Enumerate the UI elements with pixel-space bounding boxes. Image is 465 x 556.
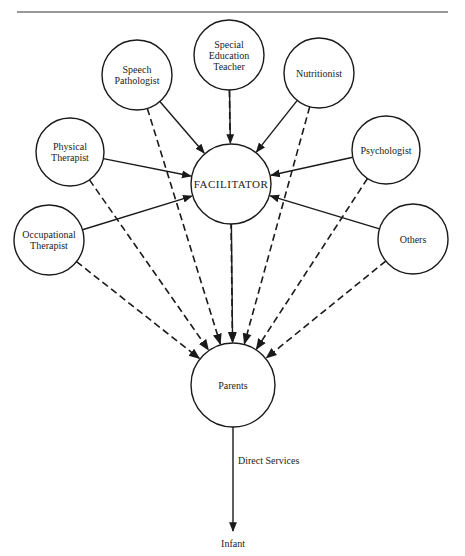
node-physical-therapist-label: Therapist xyxy=(51,152,89,163)
direct-services-label: Direct Services xyxy=(238,455,299,466)
nutritionist-to-parents-edge xyxy=(244,107,309,344)
nutritionist-to-facilitator-edge xyxy=(256,100,297,151)
node-special-education-teacher-label: Education xyxy=(209,50,250,61)
node-psychologist: Psychologist xyxy=(352,116,420,184)
node-speech-pathologist: SpeechPathologist xyxy=(102,40,172,110)
node-occupational-therapist-label: Occupational xyxy=(22,229,76,240)
physical-therapist-to-parents-edge xyxy=(89,180,208,350)
node-facilitator-label: FACILITATOR xyxy=(194,178,269,190)
psychologist-to-parents-edge xyxy=(256,178,367,348)
others-to-parents-edge xyxy=(266,261,385,358)
node-special-education-teacher-label: Special xyxy=(214,39,244,50)
others-to-facilitator-edge xyxy=(270,196,379,229)
node-speech-pathologist-label: Pathologist xyxy=(114,75,159,86)
speech-pathologist-to-parents-edge xyxy=(147,108,220,343)
node-occupational-therapist-label: Therapist xyxy=(30,240,68,251)
infant-label: Infant xyxy=(221,538,245,549)
node-special-education-teacher-label: Teacher xyxy=(213,61,245,72)
occupational-therapist-to-facilitator-edge xyxy=(82,196,191,230)
nodes: SpeechPathologistSpecialEducationTeacher… xyxy=(14,20,448,549)
node-nutritionist: Nutritionist xyxy=(284,38,354,108)
node-nutritionist-label: Nutritionist xyxy=(296,68,342,79)
node-facilitator: FACILITATOR xyxy=(191,144,271,224)
node-others: Others xyxy=(378,204,448,274)
node-parents-label: Parents xyxy=(218,380,248,391)
node-occupational-therapist: OccupationalTherapist xyxy=(14,205,84,275)
physical-therapist-to-facilitator-edge xyxy=(103,159,190,176)
node-special-education-teacher: SpecialEducationTeacher xyxy=(194,20,264,90)
node-others-label: Others xyxy=(400,234,427,245)
node-speech-pathologist-label: Speech xyxy=(123,64,152,75)
node-psychologist-label: Psychologist xyxy=(360,145,411,156)
node-physical-therapist-label: Physical xyxy=(53,141,87,152)
node-physical-therapist: PhysicalTherapist xyxy=(36,118,104,186)
node-parents: Parents xyxy=(191,343,275,427)
team-model-diagram: SpeechPathologistSpecialEducationTeacher… xyxy=(0,0,465,556)
speech-pathologist-to-facilitator-edge xyxy=(160,102,204,153)
special-education-teacher-to-facilitator-edge xyxy=(230,90,231,143)
psychologist-to-facilitator-edge xyxy=(271,157,353,175)
